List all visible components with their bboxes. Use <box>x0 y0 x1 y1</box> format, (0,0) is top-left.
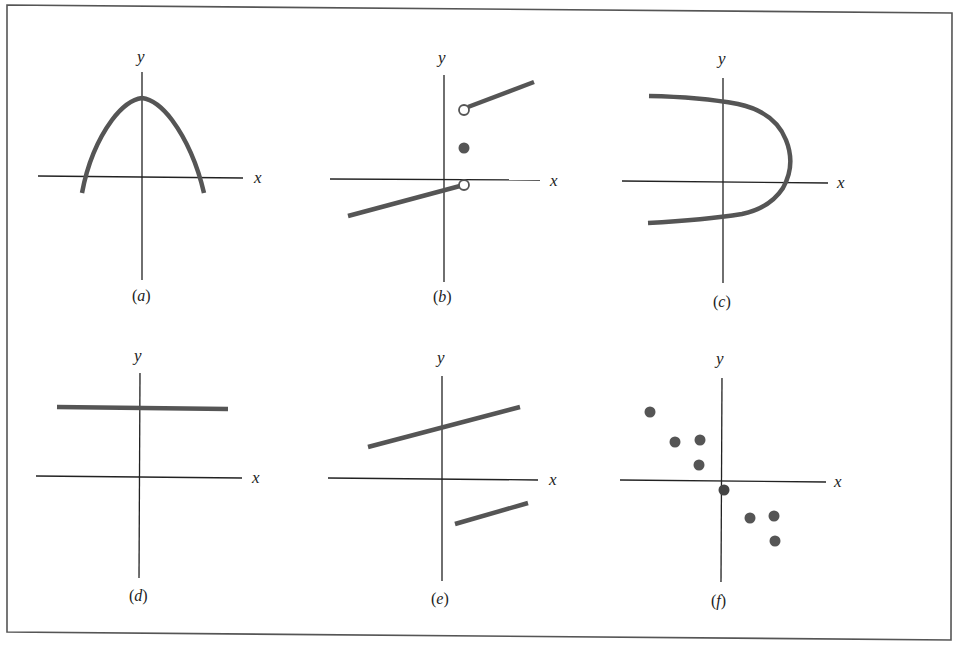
scatter-point <box>670 437 681 448</box>
scatter-point <box>769 511 780 522</box>
panel-b: y x (b) <box>330 48 558 306</box>
y-axis-label: y <box>436 48 446 67</box>
x-axis-label: x <box>549 171 558 190</box>
scatter-point <box>695 435 706 446</box>
panel-caption-f: (f) <box>711 592 726 610</box>
x-axis <box>328 478 538 480</box>
scatter-point <box>770 536 781 547</box>
x-axis <box>620 480 826 482</box>
scatter-point <box>645 407 656 418</box>
panel-caption-c: (c) <box>713 293 731 311</box>
x-axis <box>330 179 540 180</box>
panel-c: y x (c) <box>622 49 845 311</box>
lower-segment <box>455 503 528 524</box>
scatter-point <box>694 460 705 471</box>
scatter-point <box>719 485 730 496</box>
scatter-point <box>745 513 756 524</box>
panel-caption-b: (b) <box>433 288 452 306</box>
sideways-parabola-curve <box>648 96 790 223</box>
y-axis-label: y <box>435 348 445 367</box>
panel-a: y x (a) <box>38 47 262 305</box>
y-axis <box>721 378 722 582</box>
y-axis-label: y <box>135 47 145 66</box>
panel-e: y x (e) <box>328 348 557 608</box>
y-axis <box>139 373 140 578</box>
y-axis-label: y <box>132 346 142 365</box>
x-axis-label: x <box>836 173 845 192</box>
open-circle-upper <box>459 105 469 115</box>
panel-caption-d: (d) <box>129 587 148 605</box>
panel-caption-e: (e) <box>431 590 449 608</box>
panel-d: y x (d) <box>36 346 260 605</box>
x-axis-label: x <box>253 168 262 187</box>
horizontal-line <box>57 407 228 409</box>
open-circle-lower <box>459 180 469 190</box>
upper-segment <box>368 407 520 447</box>
y-axis-label: y <box>716 49 726 68</box>
x-axis-label: x <box>251 468 260 487</box>
panel-caption-a: (a) <box>132 287 151 305</box>
x-axis-label: x <box>548 470 557 489</box>
panel-f: y x (f) <box>620 349 842 610</box>
parabola-curve <box>82 98 204 193</box>
x-axis-label: x <box>833 472 842 491</box>
filled-point <box>459 143 470 154</box>
x-axis <box>38 176 243 178</box>
upper-segment <box>468 82 534 107</box>
figure-canvas: y x (a) y x (b) y x (c) y x <box>0 0 957 646</box>
x-axis <box>622 181 828 183</box>
lower-segment <box>348 186 460 216</box>
y-axis-label: y <box>714 349 724 368</box>
